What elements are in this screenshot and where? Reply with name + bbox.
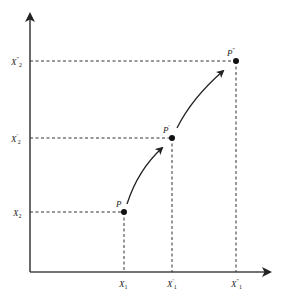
x-tick-x1: X1 (119, 278, 128, 290)
arrow-p-to-p1 (127, 148, 162, 204)
x-tick-x1-prime: X′1 (167, 278, 177, 290)
point-label-p-prime: P′ (163, 124, 170, 135)
y-tick-x2: X2 (13, 207, 22, 219)
y-tick-x2-double-prime: X″2 (11, 56, 22, 68)
point-p-prime (169, 135, 175, 141)
arrow-p1-to-p2 (177, 71, 223, 128)
point-p (121, 209, 127, 215)
y-tick-x2-prime: X′2 (11, 133, 21, 145)
x-tick-x1-double-prime: X″1 (231, 278, 242, 290)
point-label-p: P (116, 198, 122, 209)
diagram-canvas (0, 0, 286, 295)
point-p-double-prime (233, 58, 239, 64)
point-label-p-double-prime: P″ (227, 47, 235, 58)
